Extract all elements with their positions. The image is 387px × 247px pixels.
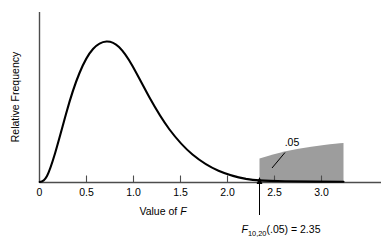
y-axis-title: Relative Frequency (9, 51, 21, 142)
critical-value-df1: 10, (248, 229, 258, 238)
x-tick-label-1_0: 1.0 (126, 186, 141, 198)
critical-value-number: 2.35 (300, 223, 321, 235)
x-axis-title-symbol: F (180, 205, 187, 217)
f-distribution-chart: 0 0.5 1.0 1.5 2.0 2.5 3.0 Value of F Rel… (0, 0, 387, 247)
critical-value-df2: 20 (258, 229, 266, 238)
density-curve (40, 41, 260, 182)
critical-value-equals: = (288, 223, 300, 235)
chart-canvas: 0 0.5 1.0 1.5 2.0 2.5 3.0 Value of F Rel… (0, 0, 387, 247)
x-tick-label-2_5: 2.5 (267, 186, 282, 198)
x-tick-label-0_5: 0.5 (79, 186, 94, 198)
critical-value-alpha: (.05) (266, 223, 288, 235)
x-tick-label-1_5: 1.5 (173, 186, 188, 198)
x-axis-title-prefix: Value of (139, 205, 180, 217)
x-tick-label-2_0: 2.0 (220, 186, 235, 198)
critical-value-label: F10,20(.05) = 2.35 (242, 223, 321, 238)
shaded-tail-region (260, 143, 344, 182)
x-tick-label-3_0: 3.0 (314, 186, 329, 198)
shaded-area-label: .05 (285, 136, 300, 148)
x-axis-title: Value of F (139, 205, 187, 217)
x-tick-label-0: 0 (37, 186, 43, 198)
